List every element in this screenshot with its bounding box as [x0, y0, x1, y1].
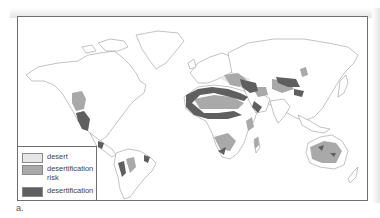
legend-label: desertification: [47, 186, 95, 195]
frame-shadow-right: [372, 8, 380, 203]
world-map-frame: desert desertification risk desertificat…: [17, 16, 368, 201]
arctic-islands-2: [82, 45, 96, 53]
desertification-swatch: [22, 187, 43, 197]
desert-swatch: [22, 153, 43, 163]
india: [270, 99, 290, 123]
new-zealand: [348, 167, 358, 183]
legend-item-desertification-risk: desertification risk: [22, 164, 95, 182]
legend-item-desert: desert: [22, 152, 95, 163]
arctic-islands: [98, 39, 128, 51]
legend-item-desertification: desertification: [22, 186, 95, 197]
map-legend: desert desertification risk desertificat…: [18, 146, 97, 200]
legend-label: desert: [47, 152, 95, 161]
greenland: [136, 31, 184, 69]
desertification-risk-swatch: [22, 165, 43, 175]
legend-label: desertification risk: [47, 164, 95, 182]
uk: [188, 59, 196, 69]
figure-caption: a.: [16, 203, 24, 213]
southeast-asia: [298, 115, 330, 133]
south-america: [114, 149, 156, 199]
